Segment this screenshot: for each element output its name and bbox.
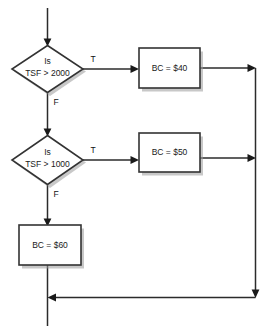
edge-d2-true-arrowhead (131, 156, 140, 164)
edge-d1-false (44, 93, 52, 137)
process-node-bc-60[interactable]: BC = $60 (19, 225, 84, 269)
edge-label-d1-true: T (90, 54, 95, 64)
edge-p40-to-rail-arrowhead (248, 64, 257, 72)
process-node-bc-50-label: BC = $50 (152, 147, 188, 157)
edge-d2-false (44, 185, 52, 227)
decision-node-tsf-1000-line1: Is (44, 147, 51, 157)
decision-node-tsf-2000-line2: TSF > 2000 (25, 68, 70, 78)
edge-right-rail-arrowhead (252, 290, 260, 299)
decision-node-tsf-2000[interactable]: Is TSF > 2000 (12, 46, 86, 97)
edge-d1-true-arrowhead (131, 65, 140, 73)
edge-bottom-return-arrowhead (48, 293, 57, 301)
edge-label-d2-true: T (90, 145, 95, 155)
edge-p50-to-rail (200, 154, 256, 162)
process-node-bc-50[interactable]: BC = $50 (139, 133, 203, 176)
edge-entry (44, 8, 52, 47)
edge-label-d2-false: F (53, 189, 58, 199)
process-node-bc-60-label: BC = $60 (32, 240, 68, 250)
flowchart-canvas: Is TSF > 2000 Is TSF > 1000 BC = $40 BC … (0, 0, 278, 334)
process-node-bc-40-label: BC = $40 (152, 63, 188, 73)
decision-node-tsf-2000-line1: Is (44, 56, 51, 66)
process-node-bc-40[interactable]: BC = $40 (139, 48, 203, 92)
edge-right-rail (252, 68, 260, 298)
decision-node-tsf-1000[interactable]: Is TSF > 1000 (12, 136, 86, 189)
flowchart-svg: Is TSF > 2000 Is TSF > 1000 BC = $40 BC … (0, 0, 278, 334)
edge-p40-to-rail (200, 64, 256, 72)
edge-d2-true (83, 156, 139, 164)
edge-bottom-return (48, 293, 256, 301)
edge-label-d1-false: F (53, 97, 58, 107)
edge-d1-true (83, 65, 139, 73)
decision-node-tsf-1000-line2: TSF > 1000 (25, 159, 70, 169)
edge-p50-to-rail-arrowhead (248, 154, 257, 162)
